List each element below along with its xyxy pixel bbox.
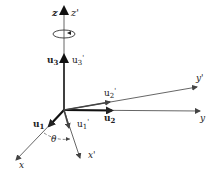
u1-prime-vector <box>64 110 69 128</box>
u3-label: u3 <box>47 55 59 67</box>
u3-prime-label: u3' <box>72 54 84 67</box>
u2-prime-label: u2' <box>104 87 116 100</box>
u1-prime-label: u1' <box>77 118 89 131</box>
u1-label: u1 <box>33 119 45 131</box>
rotation-diagram: z z' u3 u3' x u1 x' u1' θ y u2 <box>0 0 219 175</box>
u2-prime-vector <box>64 102 110 110</box>
u3-vector <box>59 53 69 110</box>
theta-angle-arc <box>44 133 70 141</box>
z-axis-label: z <box>51 7 58 18</box>
x-axis-label: x <box>19 160 24 170</box>
theta-label: θ <box>51 134 57 144</box>
y-prime-axis-label: y' <box>195 73 204 83</box>
u2-label: u2 <box>104 113 116 125</box>
u1-vector <box>49 110 64 126</box>
y-axis-label: y <box>199 113 206 123</box>
u2-vector <box>64 110 112 111</box>
z-prime-axis-label: z' <box>70 7 79 18</box>
x-prime-axis-label: x' <box>88 150 96 160</box>
